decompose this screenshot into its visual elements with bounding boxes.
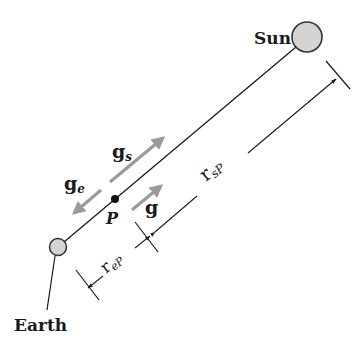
r-ep-dimension-line-upper: [135, 236, 150, 248]
point-p-label: P: [105, 209, 119, 228]
earth-sun-line: [64, 47, 296, 242]
point-p-marker: [111, 195, 119, 203]
g-e-label: ge: [64, 172, 85, 196]
dimension-tick-earth: [76, 270, 99, 300]
g-s-label: gs: [112, 140, 132, 164]
g-label: g: [145, 196, 158, 218]
earth-icon: [50, 239, 67, 256]
sun-label: Sun: [254, 28, 291, 48]
earth-leader-line: [47, 256, 55, 310]
earth-label: Earth: [14, 315, 67, 335]
r-sp-dimension-line-upper: [248, 79, 336, 153]
dimension-tick-p: [135, 222, 158, 252]
sun-icon: [292, 22, 322, 52]
r-ep-dimension-line-lower: [88, 276, 103, 288]
r-sp-dimension-line-lower: [155, 196, 197, 232]
earth-sun-gravity-diagram: Sun Earth P gs ge g rsP reP: [0, 0, 358, 339]
r-ep-label: reP: [96, 247, 127, 278]
r-sp-label: rsP: [194, 153, 228, 187]
